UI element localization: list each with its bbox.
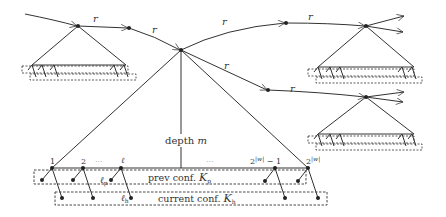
path-edge-incoming [25, 14, 77, 26]
ellipsis: ··· [95, 157, 103, 166]
edge-label-r: r [222, 16, 228, 27]
leaf-label-last: 2|w| [306, 155, 320, 166]
edge-label-r: r [224, 60, 230, 71]
ell-p-label: ℓp [100, 175, 108, 187]
path-edge-out-c [366, 92, 404, 97]
current-conf-label: current conf. Kh [158, 192, 236, 205]
path-edge-r1 [78, 26, 128, 28]
prev-conf-label: prev conf. Kp [148, 171, 211, 185]
subtree-upper-right [308, 26, 422, 83]
edge-label-r: r [290, 83, 296, 94]
main-subtree [52, 50, 308, 168]
ell-h-label: ℓh [121, 193, 129, 204]
path-edge-r6 [268, 90, 365, 97]
leaf-label-2: 2 [81, 157, 86, 166]
leaf-label-1: 1 [50, 157, 55, 166]
edge-label-r: r [93, 13, 99, 24]
depth-label: depth m [165, 135, 207, 146]
path-edge-r3 [181, 23, 285, 50]
path-edge-out-a [366, 16, 404, 26]
path-edge-r4 [286, 23, 365, 26]
subtree-left [22, 26, 136, 80]
leaf-label-second-last: 2|w| − 1 [250, 155, 281, 166]
edge-label-r: r [152, 24, 158, 35]
ellipsis: ··· [206, 157, 214, 166]
leaf-label-ell: ℓ [121, 156, 125, 165]
subtree-lower-right [308, 97, 422, 150]
computation-tree-diagram: r r r r r r depth m 1 2 ··· ℓ ··· 2|w| −… [0, 0, 446, 217]
edge-label-r: r [308, 11, 314, 22]
